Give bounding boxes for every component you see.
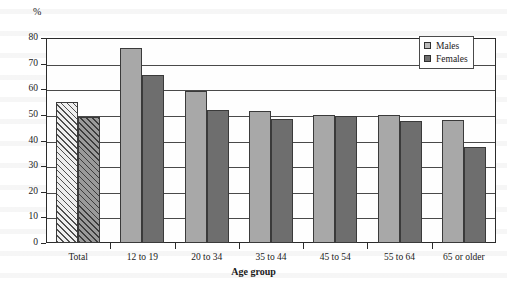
x-tick-mark-2 [175, 243, 176, 249]
bar-females-12-to-19 [142, 75, 164, 243]
legend-label-males: Males [436, 41, 459, 51]
x-tick-label-20-to-34: 20 to 34 [175, 252, 239, 262]
legend-swatch-males-icon [424, 42, 431, 49]
grouped-bar-chart: % 01020304050607080 Total12 to 1920 to 3… [0, 0, 507, 286]
x-tick-label-65-or-older: 65 or older [432, 252, 496, 262]
legend-label-females: Females [436, 54, 468, 64]
x-tick-mark-4 [303, 243, 304, 249]
y-tick-label-60: 60 [12, 84, 38, 94]
legend-swatch-females-icon [424, 55, 431, 62]
bar-males-35-to-44 [249, 111, 271, 243]
y-tick-label-20: 20 [12, 187, 38, 197]
bar-males-12-to-19 [120, 48, 142, 243]
x-tick-label-12-to-19: 12 to 19 [110, 252, 174, 262]
bar-males-55-to-64 [378, 115, 400, 243]
legend-item-females: Females [424, 52, 468, 65]
bar-females-55-to-64 [400, 121, 422, 243]
bar-males-65-or-older [442, 120, 464, 243]
y-tick-label-0: 0 [12, 238, 38, 248]
y-tick-label-40: 40 [12, 136, 38, 146]
x-tick-label-35-to-44: 35 to 44 [239, 252, 303, 262]
chart-legend: Males Females [419, 36, 474, 69]
bar-females-20-to-34 [207, 110, 229, 243]
y-tick-mark-0 [41, 243, 46, 244]
bar-males-45-to-54 [313, 115, 335, 243]
y-axis-unit-label: % [33, 6, 41, 17]
bar-males-20-to-34 [185, 91, 207, 243]
x-tick-label-55-to-64: 55 to 64 [367, 252, 431, 262]
x-axis-title: Age group [0, 266, 507, 277]
x-tick-mark-3 [239, 243, 240, 249]
x-tick-label-45-to-54: 45 to 54 [303, 252, 367, 262]
y-tick-label-50: 50 [12, 110, 38, 120]
bar-males-total [56, 102, 78, 243]
x-tick-mark-1 [110, 243, 111, 249]
x-tick-mark-6 [432, 243, 433, 249]
legend-item-males: Males [424, 39, 468, 52]
bar-females-total [78, 117, 100, 243]
y-tick-label-30: 30 [12, 161, 38, 171]
bar-females-35-to-44 [271, 119, 293, 243]
y-tick-label-70: 70 [12, 59, 38, 69]
bar-females-45-to-54 [335, 116, 357, 243]
x-tick-mark-5 [367, 243, 368, 249]
x-tick-label-total: Total [46, 252, 110, 262]
y-tick-label-80: 80 [12, 33, 38, 43]
y-tick-label-10: 10 [12, 212, 38, 222]
bar-females-65-or-older [464, 147, 486, 243]
